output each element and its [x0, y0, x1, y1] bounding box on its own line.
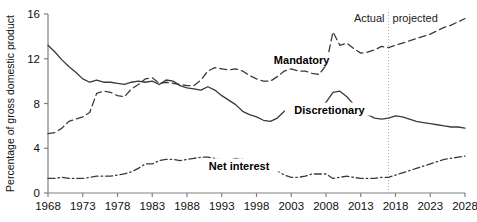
projected-label: projected: [393, 12, 438, 24]
x-tick-labels: 1968197319781983198819931998200320082013…: [35, 200, 477, 212]
plot-area: 0481216 19681973197819831988199319982003…: [4, 8, 477, 212]
line-chart: 0481216 19681973197819831988199319982003…: [0, 0, 477, 222]
y-tick-label: 16: [27, 8, 40, 20]
series-label-mandatory: Mandatory: [270, 53, 334, 66]
series-label-text: Mandatory: [274, 54, 331, 66]
series-label-text: Net interest: [209, 160, 270, 172]
y-tick-label: 4: [34, 142, 41, 154]
x-tick-label: 2008: [313, 200, 339, 212]
x-tick-label: 1973: [70, 200, 96, 212]
x-tick-label: 2028: [452, 200, 477, 212]
region-annotations: Actualprojected: [354, 12, 438, 24]
chart-container: 0481216 19681973197819831988199319982003…: [0, 0, 477, 222]
actual-label: Actual: [354, 12, 385, 24]
x-tick-label: 1968: [35, 200, 61, 212]
y-tick-label: 8: [34, 98, 40, 110]
x-tick-label: 1978: [105, 200, 131, 212]
series-label-text: Discretionary: [294, 104, 365, 116]
series-line-discretionary: [48, 45, 465, 128]
y-tick-label: 12: [27, 53, 40, 65]
x-tick-label: 2018: [383, 200, 409, 212]
x-tick-label: 1993: [209, 200, 235, 212]
x-tick-label: 1988: [174, 200, 200, 212]
series-lines: [48, 18, 465, 178]
x-tick-label: 1998: [244, 200, 270, 212]
y-axis-label: Percentage of gross domestic product: [4, 15, 16, 192]
x-tick-label: 2003: [278, 200, 304, 212]
x-tick-label: 2023: [417, 200, 443, 212]
series-label-discretionary: Discretionary: [285, 103, 374, 116]
y-tick-labels: 0481216: [27, 8, 40, 199]
series-label-net-interest: Net interest: [198, 159, 281, 172]
x-tick-label: 1983: [139, 200, 165, 212]
x-tick-label: 2013: [348, 200, 374, 212]
y-tick-label: 0: [34, 187, 40, 199]
y-axis-label-text: Percentage of gross domestic product: [4, 15, 16, 192]
